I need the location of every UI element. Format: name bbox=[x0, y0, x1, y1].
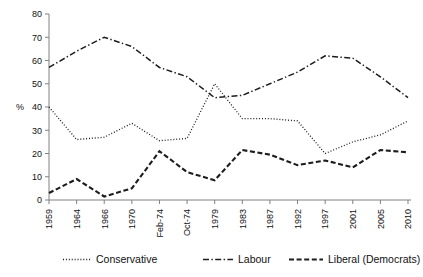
x-tick-label: 1979 bbox=[210, 209, 220, 229]
x-tick-label: 1959 bbox=[44, 209, 54, 229]
x-tick-label: 1987 bbox=[265, 209, 275, 229]
y-tick-label: 40 bbox=[32, 102, 42, 112]
legend-label: Liberal (Democrats) bbox=[328, 253, 420, 265]
x-tick-label: 1970 bbox=[127, 209, 137, 229]
y-axis: 01020304050607080 bbox=[32, 9, 49, 205]
x-tick-label: 1992 bbox=[293, 209, 303, 229]
y-tick-label: 30 bbox=[32, 126, 42, 136]
x-tick-label: 2005 bbox=[376, 209, 386, 229]
y-tick-label: 70 bbox=[32, 33, 42, 43]
x-axis: 1959196419661970Feb-74Oct-74197919831987… bbox=[44, 200, 413, 238]
y-axis-title: % bbox=[16, 102, 24, 112]
series-line bbox=[49, 150, 408, 197]
x-tick-label: 1983 bbox=[238, 209, 248, 229]
x-tick-label: 1964 bbox=[72, 209, 82, 229]
x-tick-label: 1966 bbox=[100, 209, 110, 229]
y-tick-label: 10 bbox=[32, 172, 42, 182]
x-tick-label: 1997 bbox=[320, 209, 330, 229]
x-tick-label: 2001 bbox=[348, 209, 358, 229]
y-axis-label: % bbox=[16, 102, 24, 112]
line-chart: 01020304050607080 1959196419661970Feb-74… bbox=[0, 0, 423, 277]
y-tick-label: 60 bbox=[32, 56, 42, 66]
y-tick-label: 80 bbox=[32, 9, 42, 19]
y-tick-label: 50 bbox=[32, 79, 42, 89]
y-tick-label: 0 bbox=[37, 195, 42, 205]
y-tick-label: 20 bbox=[32, 149, 42, 159]
series-line bbox=[49, 84, 408, 154]
x-tick-label: Feb-74 bbox=[155, 209, 165, 238]
series-line bbox=[49, 37, 408, 97]
x-tick-label: 2010 bbox=[403, 209, 413, 229]
series-lines bbox=[49, 37, 408, 196]
chart-canvas: 01020304050607080 1959196419661970Feb-74… bbox=[0, 0, 423, 277]
chart-legend: ConservativeLabourLiberal (Democrats) bbox=[63, 253, 420, 265]
x-tick-label: Oct-74 bbox=[182, 209, 192, 236]
legend-label: Conservative bbox=[96, 253, 157, 265]
legend-label: Labour bbox=[238, 253, 271, 265]
